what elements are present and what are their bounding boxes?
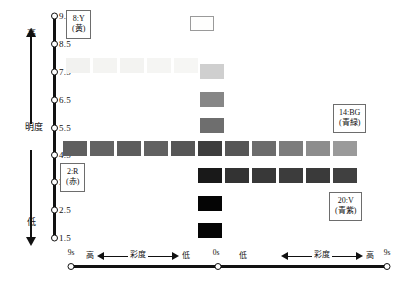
chroma-right-end-label: 9s: [384, 248, 391, 257]
hue-callout-blue-green: 14:BG(青緑): [333, 104, 366, 133]
color-swatch: [333, 141, 357, 156]
lightness-tick: [51, 179, 58, 186]
lightness-up-arrow: [30, 36, 32, 124]
chroma-axis-line: [70, 265, 388, 268]
color-swatch: [306, 168, 330, 183]
lightness-high-label: 高: [20, 26, 42, 39]
color-swatch: [200, 92, 224, 107]
chroma-right-low-label: 低: [239, 249, 247, 260]
lightness-tick-label: 5.5: [59, 123, 71, 133]
color-swatch: [120, 58, 144, 73]
color-swatch: [200, 64, 224, 79]
hue-name: (赤): [66, 177, 79, 187]
hue-name: (青紫): [335, 206, 356, 216]
color-swatch: [279, 168, 303, 183]
chroma-left-high-label: 高: [86, 249, 94, 260]
hue-code: 8:Y: [72, 14, 85, 24]
color-swatch: [174, 58, 198, 73]
color-swatch: [90, 141, 114, 156]
color-swatch: [63, 141, 87, 156]
color-swatch: [198, 196, 222, 211]
chroma-center-label: 0s: [213, 248, 220, 257]
lightness-axis-title: 明度: [25, 122, 37, 132]
lightness-tick: [51, 125, 58, 132]
color-chart-figure: 高 明度 低 9.58.57.56.55.54.53.52.51.5 彩度 彩度…: [0, 0, 401, 282]
lightness-tick: [51, 235, 58, 242]
lightness-tick-label: 6.5: [59, 95, 71, 105]
chroma-caption-left: 彩度: [128, 248, 148, 259]
chroma-tick: [384, 263, 391, 270]
lightness-tick-label: 1.5: [59, 233, 71, 243]
hue-code: 2:R: [66, 167, 79, 177]
color-swatch: [225, 141, 249, 156]
hue-name: (黄): [72, 24, 85, 34]
chroma-left-end-label: 9s: [68, 248, 75, 257]
color-swatch: [93, 58, 117, 73]
chroma-caption-right: 彩度: [312, 248, 332, 259]
hue-name: (青緑): [339, 118, 360, 128]
color-swatch: [279, 141, 303, 156]
lightness-tick-label: 2.5: [59, 205, 71, 215]
hue-code: 20:V: [335, 196, 356, 206]
color-swatch: [198, 141, 222, 156]
lightness-tick: [51, 207, 58, 214]
lightness-low-label: 低: [20, 215, 42, 228]
hue-code: 14:BG: [339, 108, 360, 118]
lightness-tick-label: 8.5: [59, 39, 71, 49]
lightness-tick: [51, 69, 58, 76]
color-swatch: [200, 118, 224, 133]
color-swatch: [252, 168, 276, 183]
color-swatch: [225, 168, 249, 183]
color-swatch: [117, 141, 141, 156]
color-swatch: [333, 168, 357, 183]
color-swatch: [190, 16, 214, 31]
color-swatch: [198, 168, 222, 183]
chroma-tick: [215, 263, 222, 270]
color-swatch: [147, 58, 171, 73]
chroma-tick: [68, 263, 75, 270]
lightness-tick: [51, 152, 58, 159]
color-swatch: [198, 223, 222, 238]
lightness-tick: [51, 97, 58, 104]
lightness-tick: [51, 41, 58, 48]
color-swatch: [252, 141, 276, 156]
hue-callout-yellow: 8:Y(黄): [66, 10, 91, 39]
color-swatch: [66, 58, 90, 73]
color-swatch: [144, 141, 168, 156]
lightness-tick: [51, 13, 58, 20]
hue-callout-red: 2:R(赤): [60, 163, 85, 192]
color-swatch: [306, 141, 330, 156]
color-swatch: [171, 141, 195, 156]
chroma-right-high-label: 高: [366, 249, 374, 260]
hue-callout-violet: 20:V(青紫): [329, 192, 362, 221]
chroma-left-low-label: 低: [182, 249, 190, 260]
